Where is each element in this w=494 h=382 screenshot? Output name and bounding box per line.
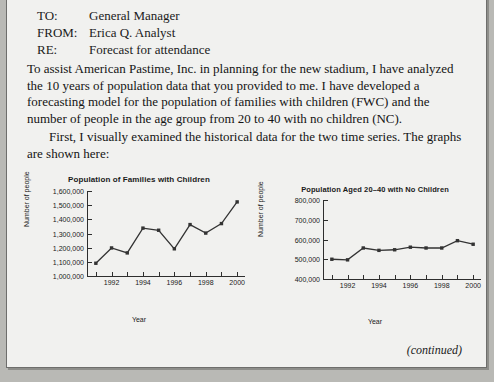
chart-x-tick-mark (206, 272, 207, 276)
chart-y-tick-label: 500,000 (295, 256, 324, 263)
chart-x-tick-mark-minor (426, 275, 427, 279)
chart-y-tick-mark (88, 191, 92, 192)
chart-y-tick-mark (88, 276, 92, 277)
chart-y-tick-label: 1,100,000 (53, 258, 88, 265)
chart-y-axis-label: Number of people (257, 181, 264, 237)
chart-x-tick-mark-minor (332, 275, 333, 279)
body-paragraph-2: First, I visually examined the historica… (27, 129, 467, 162)
chart-y-tick-mark (324, 259, 328, 260)
chart-x-tick-label: 1992 (340, 282, 356, 289)
chart-x-tick-mark (174, 272, 175, 276)
chart-x-tick-mark (473, 275, 474, 279)
chart-y-axis-label: Number of people (23, 171, 30, 227)
chart-y-tick-mark (88, 248, 92, 249)
memo-value-from: Erica Q. Analyst (89, 24, 457, 41)
chart-line-series (324, 200, 481, 279)
chart-x-tick-mark-minor (221, 272, 222, 276)
memo-value-re: Forecast for attendance (89, 41, 457, 58)
memo-value-to: General Manager (89, 7, 457, 24)
chart-x-tick-mark-minor (395, 275, 396, 279)
memo-label-from: FROM: (37, 24, 89, 41)
chart-x-tick-mark (410, 275, 411, 279)
chart-x-tick-label: 1996 (167, 279, 183, 286)
memo-label-re: RE: (37, 41, 89, 58)
chart-x-tick-mark-minor (127, 272, 128, 276)
chart-x-tick-mark-minor (363, 275, 364, 279)
body-paragraph-1: To assist American Pastime, Inc. in plan… (27, 61, 467, 127)
chart-x-tick-mark (442, 275, 443, 279)
chart-y-tick-label: 700,000 (295, 216, 324, 223)
chart-x-axis-label: Year (259, 318, 487, 325)
chart-x-tick-mark (237, 272, 238, 276)
chart-x-tick-label: 1992 (104, 279, 120, 286)
chart-y-tick-mark (88, 205, 92, 206)
chart-x-tick-mark-minor (159, 272, 160, 276)
chart-y-tick-mark (324, 279, 328, 280)
memo-row-re: RE: Forecast for attendance (37, 41, 457, 58)
chart-plot-area: 400,000500,000600,000700,000800,00019921… (323, 200, 481, 280)
chart-y-tick-label: 1,200,000 (53, 244, 88, 251)
chart-x-tick-mark (348, 275, 349, 279)
chart-x-tick-mark (143, 272, 144, 276)
document-page: TO: General Manager FROM: Erica Q. Analy… (6, 0, 487, 368)
chart-families-with-children: Population of Families with Children Num… (25, 175, 253, 323)
chart-x-tick-label: 1998 (434, 282, 450, 289)
chart-y-tick-label: 1,300,000 (53, 230, 88, 237)
continued-note: (continued) (407, 343, 462, 358)
chart-x-tick-mark-minor (96, 272, 97, 276)
chart-y-tick-label: 1,600,000 (53, 188, 88, 195)
chart-x-tick-mark-minor (457, 275, 458, 279)
chart-y-tick-mark (324, 200, 328, 201)
memo-row-to: TO: General Manager (37, 7, 457, 24)
chart-x-tick-mark-minor (190, 272, 191, 276)
chart-x-tick-mark (112, 272, 113, 276)
chart-line-series (88, 191, 245, 276)
chart-x-tick-label: 2000 (229, 279, 245, 286)
chart-x-axis-label: Year (25, 316, 253, 323)
chart-plot-area: 1,000,0001,100,0001,200,0001,300,0001,40… (87, 191, 245, 277)
chart-y-tick-mark (88, 234, 92, 235)
chart-x-tick-label: 1994 (371, 282, 387, 289)
chart-y-tick-label: 400,000 (295, 276, 324, 283)
chart-x-tick-label: 1996 (403, 282, 419, 289)
chart-x-tick-label: 2000 (465, 282, 481, 289)
memo-header: TO: General Manager FROM: Erica Q. Analy… (37, 7, 457, 58)
chart-y-tick-mark (88, 219, 92, 220)
chart-x-tick-mark (379, 275, 380, 279)
chart-x-tick-label: 1998 (198, 279, 214, 286)
chart-aged-20-40-no-children: Population Aged 20–40 with No Children N… (259, 185, 487, 325)
chart-x-tick-label: 1994 (135, 279, 151, 286)
chart-title: Population of Families with Children (25, 175, 253, 184)
chart-y-tick-label: 1,500,000 (53, 202, 88, 209)
chart-y-tick-mark (324, 220, 328, 221)
memo-label-to: TO: (37, 7, 89, 24)
memo-row-from: FROM: Erica Q. Analyst (37, 24, 457, 41)
chart-y-tick-label: 600,000 (295, 236, 324, 243)
chart-y-tick-mark (324, 240, 328, 241)
chart-title: Population Aged 20–40 with No Children (259, 185, 487, 194)
chart-y-tick-label: 1,400,000 (53, 216, 88, 223)
chart-y-tick-label: 800,000 (295, 197, 324, 204)
chart-y-tick-label: 1,000,000 (53, 273, 88, 280)
chart-y-tick-mark (88, 262, 92, 263)
